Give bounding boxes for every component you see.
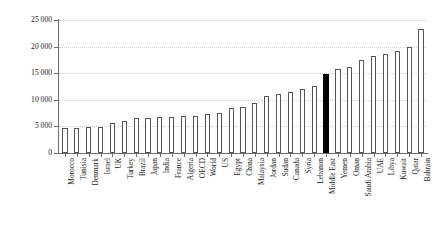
x-axis-category-label: Bahrain	[424, 158, 432, 181]
x-axis-category-label: France	[175, 158, 183, 178]
bar	[418, 29, 423, 153]
x-axis-tick-mark	[112, 153, 113, 157]
x-axis-tick-mark	[65, 153, 66, 157]
x-axis-category-label: OECD	[199, 158, 207, 178]
x-axis-tick-mark	[124, 153, 125, 157]
x-axis-category-label: Jordan	[270, 158, 278, 178]
x-axis-tick-mark	[362, 153, 363, 157]
x-axis-category-label-wrapper: France	[175, 138, 183, 158]
x-axis-category-label-wrapper: Turkey	[127, 137, 135, 158]
x-axis-category-label-wrapper: Bahrain	[424, 135, 432, 158]
y-axis-tick-label: 15 000	[31, 69, 52, 77]
x-axis-category-label-wrapper: Yemen	[341, 137, 349, 158]
x-axis-category-label-wrapper: Lebanon	[317, 132, 325, 158]
x-axis-tick-mark	[207, 153, 208, 157]
x-axis-category-label: Kuwait	[400, 158, 408, 180]
y-axis-tick-mark	[54, 47, 58, 48]
x-axis-category-labels: MoroccoTunisiaDenmarkIsraelUKTurkeyBrazi…	[59, 158, 427, 225]
y-axis-tick-mark	[54, 73, 58, 74]
x-axis-tick-mark	[314, 153, 315, 157]
x-axis-tick-mark	[77, 153, 78, 157]
x-axis-tick-mark	[290, 153, 291, 157]
x-axis-category-label-wrapper: Brazil	[139, 140, 147, 158]
x-axis-tick-mark	[172, 153, 173, 157]
x-axis-tick-mark	[184, 153, 185, 157]
x-axis-tick-mark	[89, 153, 90, 157]
y-axis-tick-mark	[54, 153, 58, 154]
x-axis-category-label: Denmark	[92, 158, 100, 186]
x-axis-tick-mark	[219, 153, 220, 157]
x-axis-category-label: Saudi Arabia	[365, 158, 373, 196]
y-axis-tick-mark	[54, 126, 58, 127]
x-axis-category-label-wrapper: Algeria	[187, 136, 195, 158]
x-axis-category-label-wrapper: World	[210, 140, 218, 158]
y-axis-tick-mark	[54, 100, 58, 101]
x-axis-category-label-wrapper: UK	[115, 147, 123, 158]
x-axis-tick-mark	[196, 153, 197, 157]
x-axis-tick-mark	[350, 153, 351, 157]
bar-chart: 05 00010 00015 00020 00025 000 MoroccoTu…	[0, 0, 434, 225]
bar	[62, 128, 67, 153]
x-axis-category-label-wrapper: OECD	[199, 138, 207, 158]
x-axis-category-label: Israel	[104, 158, 112, 174]
x-axis-category-label: Yemen	[341, 158, 349, 179]
x-axis-category-label-wrapper: Saudi Arabia	[365, 120, 373, 158]
x-axis-tick-mark	[374, 153, 375, 157]
bar	[229, 108, 234, 153]
x-axis-category-label: Tunisia	[80, 158, 88, 180]
x-axis-category-label-wrapper: Libya	[388, 141, 396, 158]
x-axis-tick-mark	[101, 153, 102, 157]
x-axis-category-label: Turkey	[127, 158, 135, 179]
x-axis-category-label: Morocco	[68, 158, 76, 185]
x-axis-tick-mark	[421, 153, 422, 157]
x-axis-tick-mark	[326, 153, 327, 157]
x-axis-tick-mark	[255, 153, 256, 157]
y-axis-tick-label: 0	[48, 149, 52, 157]
x-axis-category-label: Brazil	[139, 158, 147, 176]
x-axis-category-label: Qatar	[412, 158, 420, 174]
x-axis-category-label: US	[222, 158, 230, 167]
x-axis-category-label: World	[210, 158, 218, 176]
x-axis-category-label: China	[246, 158, 254, 176]
x-axis-tick-mark	[397, 153, 398, 157]
x-axis-tick-mark	[385, 153, 386, 157]
y-axis-tick-label: 5 000	[35, 122, 52, 130]
y-axis-tick-label: 25 000	[31, 16, 52, 24]
x-axis-category-label-wrapper: Sudan	[282, 140, 290, 158]
x-axis-category-label-wrapper: Denmark	[92, 131, 100, 159]
x-axis-tick-mark	[136, 153, 137, 157]
y-axis-tick-labels: 05 00010 00015 00020 00025 000	[0, 0, 52, 225]
x-axis-category-label: Canada	[293, 158, 301, 180]
x-axis-tick-mark	[279, 153, 280, 157]
x-axis-tick-mark	[302, 153, 303, 157]
x-axis-category-label: Japan	[151, 158, 159, 175]
x-axis-category-label-wrapper: UAE	[377, 143, 385, 158]
bar	[383, 54, 388, 153]
x-axis-tick-mark	[160, 153, 161, 157]
x-axis-category-label-wrapper: Egypt	[234, 140, 242, 158]
y-axis-tick-mark	[54, 20, 58, 21]
x-axis-tick-mark	[231, 153, 232, 157]
x-axis-tick-mark	[148, 153, 149, 157]
x-axis-category-label: Syria	[305, 158, 313, 174]
x-axis-category-label: Algeria	[187, 158, 195, 180]
y-axis-tick-label: 10 000	[31, 96, 52, 104]
x-axis-category-label-wrapper: Tunisia	[80, 136, 88, 158]
x-axis-category-label: Egypt	[234, 158, 242, 176]
y-axis-tick-label: 20 000	[31, 43, 52, 51]
x-axis-category-label-wrapper: Japan	[151, 141, 159, 158]
x-axis-category-label: Lebanon	[317, 158, 325, 184]
x-axis-tick-mark	[338, 153, 339, 157]
x-axis-category-label-wrapper: Jordan	[270, 138, 278, 158]
x-axis-category-label: Malaysia	[258, 158, 266, 185]
x-axis-category-label-wrapper: Israel	[104, 142, 112, 158]
x-axis-category-label: Oman	[353, 158, 361, 176]
x-axis-category-label-wrapper: India	[163, 143, 171, 158]
x-axis-category-label: India	[163, 158, 171, 173]
x-axis-tick-mark	[243, 153, 244, 157]
x-axis-category-label: Sudan	[282, 158, 290, 176]
x-axis-category-label-wrapper: China	[246, 140, 254, 158]
x-axis-tick-mark	[409, 153, 410, 157]
x-axis-category-label-wrapper: Syria	[305, 142, 313, 158]
x-axis-tick-mark	[267, 153, 268, 157]
